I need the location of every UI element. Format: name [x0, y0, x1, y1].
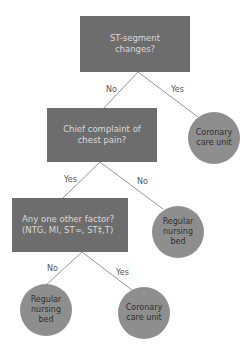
outcome-text-line: care unit — [126, 313, 162, 323]
question-text-line: chest pain? — [63, 135, 141, 146]
question-st-segment: ST-segment changes? — [80, 16, 190, 72]
question-text-line: ST-segment — [110, 33, 160, 44]
outcome-text-line: bed — [31, 315, 62, 325]
outcome-coronary-care-unit: Coronary care unit — [118, 287, 170, 339]
question-chest-pain: Chief complaint of chest pain? — [47, 108, 157, 162]
question-text-line: changes? — [110, 44, 160, 55]
outcome-text-line: bed — [163, 237, 194, 247]
edge-label-yes: Yes — [64, 175, 77, 184]
outcome-regular-nursing-bed: Regular nursing bed — [20, 284, 72, 336]
question-text-line: Any one other factor? — [22, 214, 114, 225]
outcome-text-line: Coronary — [126, 303, 162, 313]
outcome-text-line: nursing — [31, 305, 62, 315]
edge-label-no: No — [47, 264, 58, 273]
outcome-text-line: Coronary — [196, 128, 232, 138]
edge-label-yes: Yes — [171, 85, 184, 94]
question-text-line: (NTG, MI, ST∞, ST‡,T) — [22, 225, 114, 236]
question-other-factor: Any one other factor? (NTG, MI, ST∞, ST‡… — [12, 198, 128, 252]
edge-label-yes: Yes — [116, 268, 129, 277]
outcome-text-line: Regular — [163, 217, 194, 227]
outcome-regular-nursing-bed: Regular nursing bed — [152, 206, 204, 258]
edge-label-no: No — [137, 177, 148, 186]
outcome-text-line: care unit — [196, 138, 232, 148]
outcome-text-line: Regular — [31, 295, 62, 305]
outcome-coronary-care-unit: Coronary care unit — [188, 112, 240, 164]
edge-label-no: No — [106, 85, 117, 94]
question-text-line: Chief complaint of — [63, 124, 141, 135]
outcome-text-line: nursing — [163, 227, 194, 237]
